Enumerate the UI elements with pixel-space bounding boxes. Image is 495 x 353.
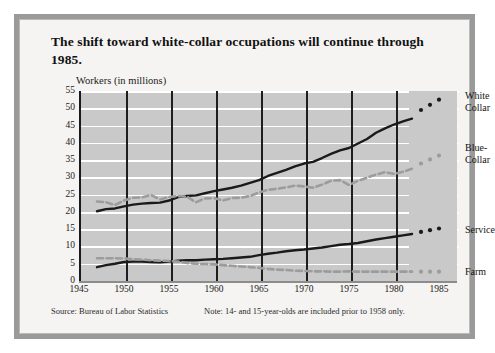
series-lines <box>79 91 457 281</box>
projection-dot-blue-collar <box>419 161 423 165</box>
x-tick-label: 1950 <box>115 284 134 294</box>
x-tick-label: 1965 <box>250 284 269 294</box>
projection-dot-blue-collar <box>428 157 432 161</box>
projection-dot-service <box>437 226 441 230</box>
projection-dot-farm <box>437 270 441 274</box>
series-line-service <box>97 234 412 267</box>
x-tick-label: 1955 <box>160 284 179 294</box>
x-tick-label: 1980 <box>385 284 404 294</box>
y-tick-label: 50 <box>53 103 75 113</box>
x-tick-label: 1945 <box>70 284 89 294</box>
x-tick-label: 1975 <box>340 284 359 294</box>
x-tick-label: 1960 <box>205 284 224 294</box>
outer-frame: The shift toward white-collar occupation… <box>14 14 475 339</box>
y-axis-title: Workers (in millions) <box>76 75 166 86</box>
x-tick-label: 1985 <box>430 284 449 294</box>
footer: Source: Bureau of Labor Statistics Note:… <box>19 306 470 326</box>
y-tick-label: 45 <box>53 121 75 131</box>
x-tick-label: 1970 <box>295 284 314 294</box>
y-tick-label: 10 <box>53 241 75 251</box>
projection-dot-blue-collar <box>437 154 441 158</box>
y-axis-ticks: 0510152025303540455055 <box>51 91 75 281</box>
note-text: Note: 14- and 15-year-olds are included … <box>204 306 405 316</box>
page-title: The shift toward white-collar occupation… <box>51 33 431 69</box>
projection-dot-service <box>428 228 432 232</box>
projection-dot-farm <box>428 270 432 274</box>
y-tick-label: 35 <box>53 155 75 165</box>
series-label-white-collar: WhiteCollar <box>465 90 490 113</box>
series-label-blue-collar: Blue-Collar <box>465 142 490 165</box>
x-axis-line <box>79 281 457 283</box>
projection-dot-white-collar <box>437 98 441 102</box>
y-tick-label: 30 <box>53 172 75 182</box>
series-label-service: Service <box>465 224 495 236</box>
series-line-farm <box>97 258 412 271</box>
series-line-blue-collar <box>97 169 412 205</box>
projection-dot-white-collar <box>428 103 432 107</box>
series-label-farm: Farm <box>465 266 486 278</box>
projection-dot-service <box>419 230 423 234</box>
chart-area: Workers (in millions) 051015202530354045… <box>29 75 469 325</box>
y-tick-label: 55 <box>53 86 75 96</box>
y-tick-label: 25 <box>53 190 75 200</box>
projection-dot-farm <box>419 270 423 274</box>
y-tick-label: 40 <box>53 138 75 148</box>
source-text: Source: Bureau of Labor Statistics <box>51 306 168 316</box>
y-tick-label: 20 <box>53 207 75 217</box>
y-tick-label: 5 <box>53 259 75 269</box>
y-tick-label: 15 <box>53 224 75 234</box>
projection-dot-white-collar <box>419 108 423 112</box>
